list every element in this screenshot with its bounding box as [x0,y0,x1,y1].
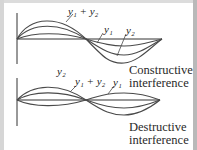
caption-constructive-line2: interference [129,77,189,90]
label-y2-bottom: y₂ [57,66,66,77]
wave-y1-constructive [17,26,162,55]
leader-y2-top [117,34,126,56]
label-y2-top: y₂ [126,25,135,36]
label-sum-top: y₁ + y₂ [68,6,98,17]
caption-constructive-line1: Constructive [129,64,193,77]
wave-y1-destructive [17,93,160,106]
leader-y1-top [97,33,103,43]
wave-y2-constructive [17,34,162,46]
caption-destructive-line2: interference [129,134,189,147]
constructive-plot [17,13,162,64]
label-y1-bottom: y₁ [113,77,122,88]
label-y1-top: y₁ [104,24,113,35]
caption-destructive-line1: Destructive [129,121,187,134]
label-sum-bottom: y₁ + y₂ [75,76,105,87]
